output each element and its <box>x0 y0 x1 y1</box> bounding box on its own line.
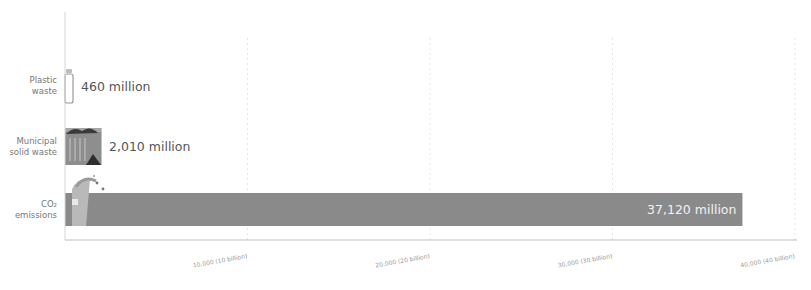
category-labels: PlasticwasteMunicipalsolid wasteCO₂emiss… <box>9 75 57 220</box>
chart: PlasticwasteMunicipalsolid wasteCO₂emiss… <box>0 0 811 290</box>
x-tick-label: 40,000 (40 billion) <box>740 252 795 268</box>
x-tick-label: 10,000 (10 billion) <box>192 252 247 268</box>
x-tick-label: 30,000 (30 billion) <box>557 252 612 268</box>
bar <box>65 193 742 226</box>
value-label: 2,010 million <box>109 139 190 154</box>
category-label: Municipalsolid waste <box>9 136 57 157</box>
x-tick-labels: 10,000 (10 billion)20,000 (20 billion)30… <box>192 252 795 268</box>
category-label: CO₂emissions <box>15 199 58 220</box>
value-label: 460 million <box>81 79 150 94</box>
trash-bin-icon <box>65 128 101 165</box>
value-label: 37,120 million <box>647 202 736 217</box>
category-label: Plasticwaste <box>30 75 58 96</box>
x-tick-label: 20,000 (20 billion) <box>375 252 430 268</box>
